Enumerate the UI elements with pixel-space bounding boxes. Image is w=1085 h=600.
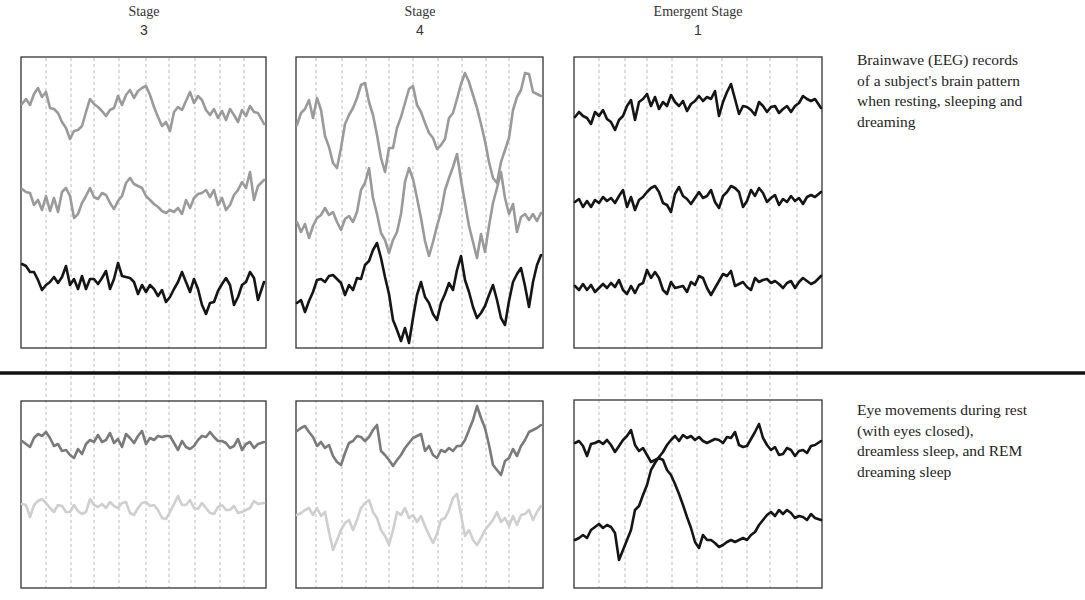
eye-caption-line-1: Eye movements during rest (857, 400, 1027, 421)
eye-panel-emergent-stage-1 (574, 400, 822, 588)
eye-stage-3-trace-1 (22, 431, 264, 458)
eeg-caption: Brainwave (EEG) records of a subject's b… (857, 50, 1022, 132)
eeg-panel-stage-3 (21, 57, 266, 348)
eye-stage-3-trace-2 (22, 496, 264, 519)
eye-stage-4-trace-1 (297, 406, 541, 475)
eeg-stage-3-trace-1 (22, 86, 264, 139)
eye-caption-line-3: dreamless sleep, and REM (857, 441, 1027, 462)
eeg-caption-line-1: Brainwave (EEG) records (857, 50, 1022, 71)
eeg-stage-3-trace-2 (22, 172, 264, 218)
eeg-stage-4-trace-2 (297, 154, 541, 258)
eeg-stage-4-trace-3 (297, 243, 541, 343)
eye-caption: Eye movements during rest (with eyes clo… (857, 400, 1027, 482)
eeg-emergent-1-trace-3 (575, 270, 821, 295)
eeg-caption-line-3: when resting, sleeping and (857, 91, 1022, 112)
eye-caption-line-4: dreaming sleep (857, 462, 1027, 483)
eye-caption-line-2: (with eyes closed), (857, 421, 1027, 442)
eeg-panel-emergent-stage-1 (574, 57, 822, 348)
eye-panel-stage-3 (21, 401, 266, 588)
eye-stage-4-trace-2 (297, 494, 541, 550)
eye-panel-stage-4 (296, 401, 543, 588)
eeg-emergent-1-trace-2 (575, 186, 821, 212)
eeg-caption-line-2: of a subject's brain pattern (857, 71, 1022, 92)
eeg-caption-line-4: dreaming (857, 112, 1022, 133)
eeg-stage-3-trace-3 (22, 263, 264, 314)
eeg-emergent-1-trace-1 (575, 84, 821, 130)
eeg-stage-4-trace-1 (297, 73, 541, 183)
